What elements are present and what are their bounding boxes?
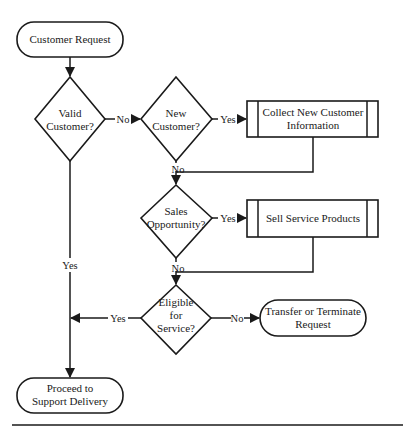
label-new-no: No [172,164,185,175]
node-sell-products: Sell Service Products [247,200,378,237]
flowchart-canvas: No Yes Yes No Yes No Yes No Customer Req… [0,0,403,435]
node-proceed-line1: Proceed to [47,382,94,394]
edge-sell-merge [176,237,313,272]
label-eligible-yes: Yes [110,313,125,324]
node-collect-line1: Collect New Customer [263,106,364,118]
label-valid-no: No [117,114,130,125]
label-eligible-no: No [231,313,244,324]
label-valid-yes: Yes [62,260,77,271]
node-valid-line2: Customer? [46,120,94,132]
node-valid-line1: Valid [58,107,82,119]
node-customer-request-text: Customer Request [30,33,111,45]
node-eligible-line2: for [170,309,183,321]
node-customer-request: Customer Request [17,22,123,57]
node-proceed-line2: Support Delivery [32,395,109,407]
node-sell-text: Sell Service Products [266,212,360,224]
node-new-customer: New Customer? [141,77,212,161]
node-eligible-line3: Service? [157,322,195,334]
node-new-line2: Customer? [152,120,200,132]
label-new-yes: Yes [220,114,235,125]
node-new-line1: New [166,107,187,119]
node-sales-line2: Opportunity? [147,218,206,230]
node-collect-line2: Information [287,119,340,131]
node-transfer-terminate: Transfer or Terminate Request [260,300,366,336]
node-valid-customer: Valid Customer? [35,77,105,161]
label-sales-no: No [172,263,185,274]
node-collect-info: Collect New Customer Information [247,101,378,137]
node-transfer-line2: Request [295,318,330,330]
node-eligible-line1: Eligible [159,296,194,308]
node-sales-opportunity: Sales Opportunity? [141,185,212,258]
node-transfer-line1: Transfer or Terminate [265,305,361,317]
edge-collect-merge [176,137,313,172]
node-sales-line1: Sales [164,205,187,217]
label-sales-yes: Yes [220,213,235,224]
node-eligible-service: Eligible for Service? [141,285,211,354]
node-proceed-support: Proceed to Support Delivery [17,378,123,413]
